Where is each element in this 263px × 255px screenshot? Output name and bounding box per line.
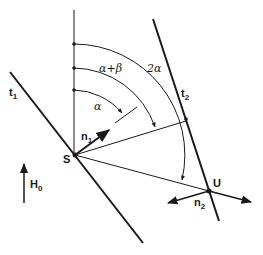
label-h0: H0	[30, 178, 43, 193]
label-t1: t1	[9, 86, 18, 101]
point-s	[73, 153, 78, 158]
label-n2: n2	[194, 196, 206, 211]
ray-s-to-u	[75, 155, 209, 191]
label-alpha: α	[94, 100, 102, 113]
diagram-canvas: t1 t2 S U n1 n2 H0 α α+β 2α	[0, 0, 263, 255]
tangent-line-t1	[10, 72, 143, 243]
normal-vector-n2	[168, 202, 251, 203]
label-2alpha: 2α	[146, 62, 162, 75]
t2-intersection-dot	[184, 117, 188, 121]
label-s: S	[63, 153, 70, 165]
label-n1: n1	[81, 130, 93, 145]
arc-alpha-plus-beta	[74, 68, 155, 127]
point-u	[207, 189, 212, 194]
label-alpha-plus-beta: α+β	[99, 62, 122, 75]
label-t2: t2	[181, 87, 190, 102]
normal-n2-right	[209, 191, 251, 202]
label-u: U	[213, 177, 221, 189]
